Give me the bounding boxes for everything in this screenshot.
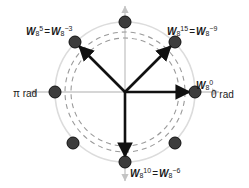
unit-circle-diagram: W85=W8−3 W815=W8−9 W80 0 rad π rad W810=… — [0, 0, 249, 188]
root-dot-w8-7 — [169, 137, 181, 149]
label-upper-right: W815=W8−9 — [167, 25, 217, 37]
label-upper-left: W85=W8−3 — [26, 25, 72, 37]
root-dot-w8-1 — [169, 36, 181, 48]
label-pi-rad: π rad — [13, 89, 37, 99]
label-upper-right-sup2: −9 — [209, 25, 217, 32]
root-dot-w8-3 — [69, 36, 81, 48]
label-bottom-sup: 10 — [143, 167, 151, 174]
root-dot-w8-4 — [49, 86, 61, 98]
label-zero-rad: 0 rad — [211, 90, 234, 100]
vector-w8-5 — [79, 46, 125, 92]
label-upper-left-equals: = — [43, 26, 51, 37]
label-bottom: W810=W8−6 — [130, 167, 180, 179]
label-upper-left-sup2: −3 — [64, 25, 72, 32]
label-upper-left-base2: W — [51, 26, 60, 37]
root-dot-w8-5 — [67, 137, 79, 149]
label-upper-right-sup: 15 — [180, 25, 188, 32]
vector-w8-15 — [125, 46, 171, 92]
label-bottom-equals: = — [151, 168, 159, 179]
root-dot-w8-2 — [119, 16, 131, 28]
label-upper-right-equals: = — [188, 26, 196, 37]
label-right-sup: 0 — [209, 79, 213, 86]
label-bottom-sup2: −6 — [172, 167, 180, 174]
